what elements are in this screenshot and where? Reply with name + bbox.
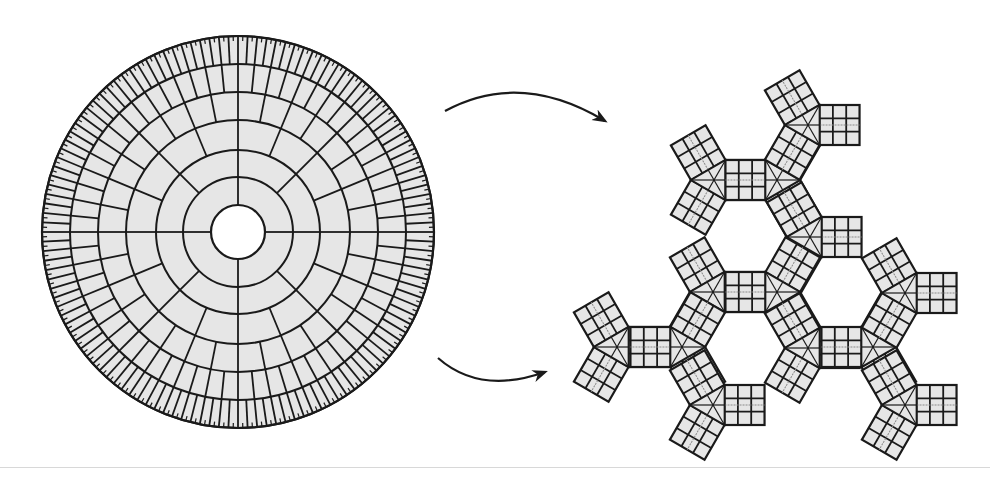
- junction-arm: [630, 327, 670, 367]
- junction-arm: [917, 385, 957, 425]
- bottom-divider: [0, 467, 990, 468]
- faint-caption-strip: [0, 455, 990, 463]
- junction-arm: [725, 272, 765, 312]
- mesh-center-hole: [211, 205, 265, 259]
- junction-arm: [725, 385, 765, 425]
- diagram-canvas: [0, 0, 990, 490]
- junction-network: [574, 70, 957, 459]
- junction-J13: [862, 350, 957, 459]
- junction-arm: [822, 217, 862, 257]
- arrows: [438, 93, 605, 381]
- junction-J3: [765, 70, 860, 179]
- arrow-top-icon: [445, 93, 605, 121]
- junction-arm: [725, 160, 765, 200]
- junction-arm: [821, 327, 861, 367]
- polar-mesh: [42, 36, 434, 428]
- junction-arm: [917, 273, 957, 313]
- junction-J11: [862, 238, 957, 347]
- arrow-bottom-icon: [438, 358, 545, 381]
- junction-arm: [820, 105, 860, 145]
